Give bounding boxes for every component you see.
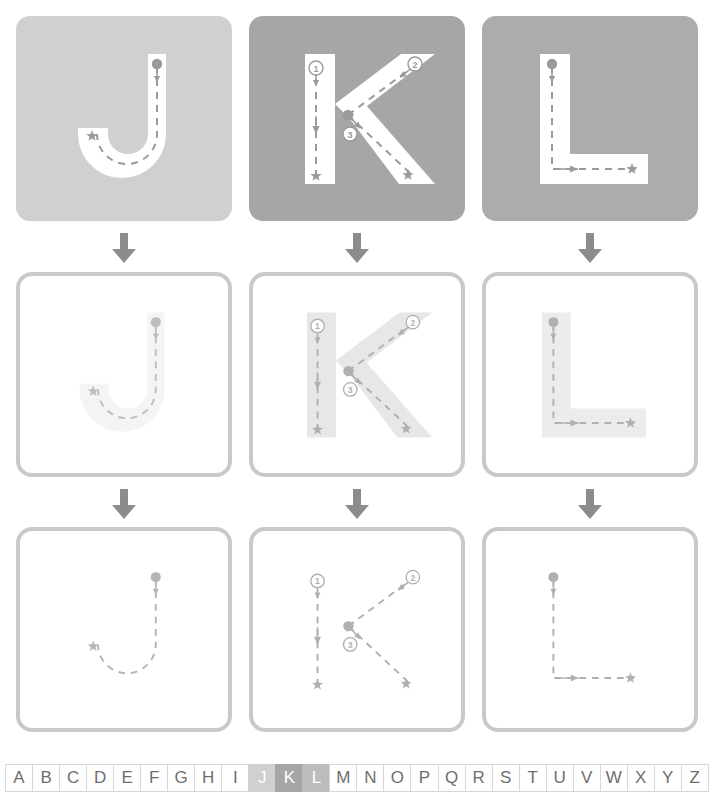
dir-arrow-l xyxy=(561,675,578,682)
alphabet-cell-g[interactable]: G xyxy=(167,764,195,792)
start-dot-j xyxy=(151,572,161,594)
alphabet-cell-s[interactable]: S xyxy=(492,764,520,792)
alphabet-cell-h[interactable]: H xyxy=(194,764,222,792)
stroke-number-k-1: 1 xyxy=(309,61,323,75)
stroke-number-k-2: 2 xyxy=(406,570,419,583)
arrow-col-l-row2 xyxy=(575,487,605,521)
letter-k-shape-2 xyxy=(350,104,435,184)
svg-text:2: 2 xyxy=(410,573,415,583)
alphabet-cell-z[interactable]: Z xyxy=(681,764,709,792)
tile-grid: 123123123 xyxy=(0,0,713,752)
stroke-number-k-3: 3 xyxy=(343,127,357,141)
guide-path-l-1 xyxy=(553,579,634,678)
alphabet-cell-t[interactable]: T xyxy=(519,764,547,792)
alphabet-cell-n[interactable]: N xyxy=(356,764,384,792)
svg-text:2: 2 xyxy=(410,318,415,328)
alphabet-cell-e[interactable]: E xyxy=(113,764,141,792)
alphabet-cell-i[interactable]: I xyxy=(221,764,249,792)
arrow-col-l-row1 xyxy=(575,231,605,265)
down-arrow-icon xyxy=(109,231,139,265)
alphabet-cell-u[interactable]: U xyxy=(546,764,574,792)
tile-l-freehand[interactable] xyxy=(482,527,698,732)
worksheet-sheet: 123123123 ABCDEFGHIJKLMNOPQRSTUVWXYZ xyxy=(0,0,713,796)
stroke-number-k-3: 3 xyxy=(344,383,357,396)
svg-text:1: 1 xyxy=(315,576,320,586)
arrow-col-j-row2 xyxy=(109,487,139,521)
tile-l-demo[interactable] xyxy=(482,16,698,221)
alphabet-cell-v[interactable]: V xyxy=(573,764,601,792)
end-star-j xyxy=(88,641,99,651)
stroke-number-k-1: 1 xyxy=(311,574,324,587)
tile-l-trace[interactable] xyxy=(482,272,698,477)
down-arrow-icon xyxy=(575,231,605,265)
arrow-col-j-row1 xyxy=(109,231,139,265)
stroke-number-k-3: 3 xyxy=(344,638,357,651)
svg-text:1: 1 xyxy=(313,64,318,74)
alphabet-cell-l[interactable]: L xyxy=(302,764,330,792)
end-star-k-3 xyxy=(401,678,412,688)
arrow-col-k-row2 xyxy=(342,487,372,521)
start-dot-l xyxy=(548,572,558,594)
arrow-col-k-row1 xyxy=(342,231,372,265)
alphabet-cell-r[interactable]: R xyxy=(465,764,493,792)
end-star-k-1 xyxy=(312,679,323,689)
dir-arrow-k-1 xyxy=(314,627,321,644)
down-arrow-icon xyxy=(342,231,372,265)
down-arrow-icon xyxy=(342,487,372,521)
stroke-number-k-2: 2 xyxy=(406,315,419,328)
svg-text:3: 3 xyxy=(348,640,353,650)
guide-path-j-1 xyxy=(98,579,156,673)
alphabet-cell-q[interactable]: Q xyxy=(438,764,466,792)
alphabet-cell-j[interactable]: J xyxy=(248,764,276,792)
stroke-number-k-2: 2 xyxy=(408,57,422,71)
letter-k-shape-2 xyxy=(350,361,432,438)
tile-k-trace-canvas: 123 xyxy=(253,276,461,473)
svg-text:3: 3 xyxy=(348,385,353,395)
end-star-l xyxy=(625,672,636,682)
alphabet-cell-w[interactable]: W xyxy=(600,764,628,792)
down-arrow-icon xyxy=(109,487,139,521)
tile-j-freehand[interactable] xyxy=(16,527,232,732)
stroke-number-k-1: 1 xyxy=(311,319,324,332)
alphabet-cell-x[interactable]: X xyxy=(627,764,655,792)
down-arrow-icon xyxy=(575,487,605,521)
alphabet-cell-y[interactable]: Y xyxy=(654,764,682,792)
svg-text:3: 3 xyxy=(347,130,352,140)
tile-l-trace-canvas xyxy=(486,276,694,473)
tile-j-freehand-canvas xyxy=(20,531,228,728)
letter-j-shape-0 xyxy=(80,313,165,432)
alphabet-cell-b[interactable]: B xyxy=(32,764,60,792)
tile-k-demo-canvas: 123 xyxy=(249,16,465,221)
alphabet-cell-d[interactable]: D xyxy=(86,764,114,792)
tile-j-trace[interactable] xyxy=(16,272,232,477)
start-dot-k-3 xyxy=(343,621,360,639)
tile-j-demo-canvas xyxy=(16,16,232,221)
alphabet-cell-m[interactable]: M xyxy=(329,764,357,792)
letter-j-shape-0 xyxy=(78,54,166,178)
svg-text:2: 2 xyxy=(412,60,417,70)
tile-j-demo[interactable] xyxy=(16,16,232,221)
tile-l-demo-canvas xyxy=(482,16,698,221)
tile-k-freehand-canvas: 123 xyxy=(253,531,461,728)
tile-k-demo[interactable]: 123 xyxy=(249,16,465,221)
tile-l-freehand-canvas xyxy=(486,531,694,728)
svg-text:1: 1 xyxy=(315,321,320,331)
alphabet-cell-f[interactable]: F xyxy=(140,764,168,792)
alphabet-cell-c[interactable]: C xyxy=(59,764,87,792)
tile-k-freehand[interactable]: 123 xyxy=(249,527,465,732)
tile-j-trace-canvas xyxy=(20,276,228,473)
alphabet-cell-k[interactable]: K xyxy=(275,764,303,792)
alphabet-cell-a[interactable]: A xyxy=(5,764,33,792)
alphabet-cell-p[interactable]: P xyxy=(410,764,438,792)
alphabet-strip: ABCDEFGHIJKLMNOPQRSTUVWXYZ xyxy=(5,764,708,792)
tile-k-trace[interactable]: 123 xyxy=(249,272,465,477)
alphabet-cell-o[interactable]: O xyxy=(383,764,411,792)
